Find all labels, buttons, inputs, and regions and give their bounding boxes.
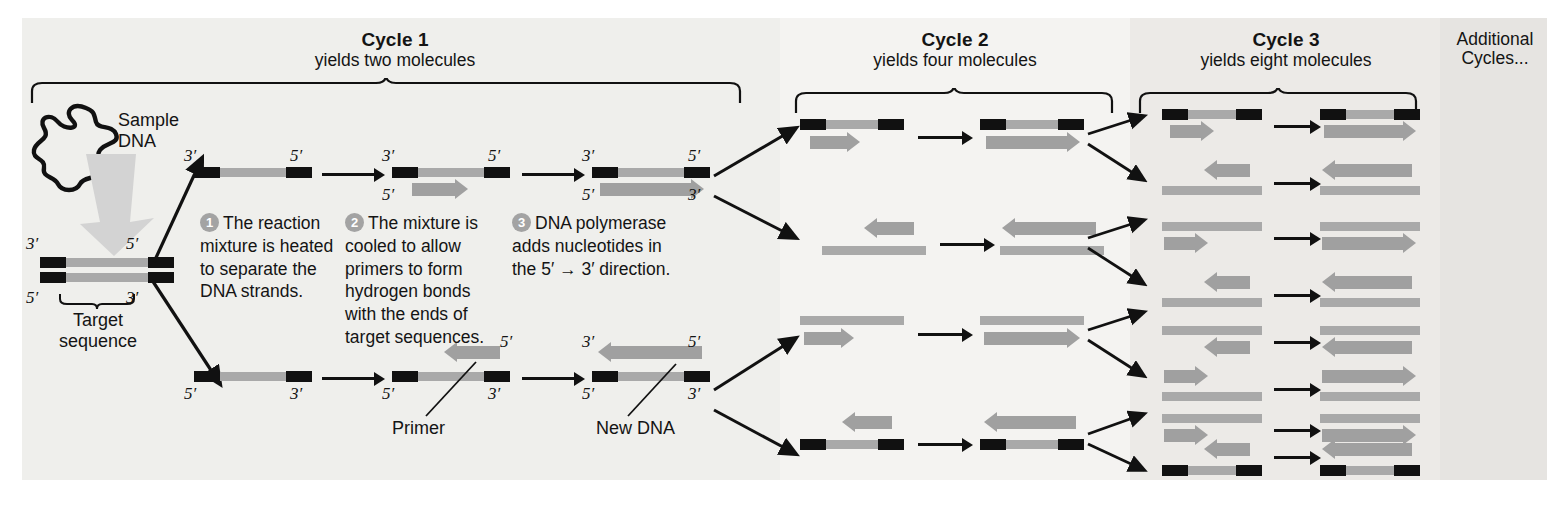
- c1-upper-a-3prime: 3′: [184, 146, 196, 166]
- duplex-3prime-topleft: 3′: [26, 234, 38, 254]
- strand: [800, 316, 904, 325]
- left-cap: [592, 167, 618, 178]
- c3-row3-b: [1320, 222, 1420, 254]
- primer-arrow-left: [1216, 164, 1250, 177]
- c3-row4-arrow: [1274, 294, 1312, 297]
- primer-arrow-left: [1216, 341, 1250, 354]
- sample-dna-label-line2: DNA: [118, 131, 218, 152]
- cycle-2-heading: Cycle 2 yields four molecules: [845, 30, 1065, 69]
- duplex-5prime-topright: 5′: [126, 234, 138, 254]
- step-3-text: DNA polymerase adds nucleotides in the 5…: [512, 213, 670, 279]
- left-cap: [800, 119, 826, 130]
- c3-row5-b: [1320, 326, 1420, 358]
- step-3-number: 3: [512, 213, 531, 232]
- left-cap: [1162, 109, 1188, 120]
- c3-row5-a: [1162, 326, 1262, 358]
- c1-upper-b-3prime: 3′: [382, 146, 394, 166]
- left-cap: [800, 439, 826, 450]
- target-sequence-label: Target sequence: [30, 310, 166, 352]
- cycle-3-subtitle: yields eight molecules: [1175, 51, 1397, 70]
- left-cap: [592, 371, 618, 382]
- duplex-top-right-cap: [148, 257, 174, 268]
- c1-lower-arrow-a-b: [322, 377, 376, 380]
- c1-lower-b-5prime: 5′: [382, 384, 394, 404]
- cycle-1-subtitle: yields two molecules: [280, 51, 510, 70]
- step-2-number: 2: [345, 213, 364, 232]
- c1-upper-a-5prime: 5′: [290, 146, 302, 166]
- strand: [1162, 326, 1262, 335]
- duplex-top-left-cap: [40, 257, 66, 268]
- right-cap: [1058, 439, 1084, 450]
- left-cap: [1162, 465, 1188, 476]
- new-dna-arrow-left: [1334, 276, 1412, 289]
- strand: [1162, 186, 1262, 195]
- c1-lower-c-new-3prime: 3′: [582, 332, 594, 352]
- additional-subtitle: Cycles...: [1443, 49, 1547, 68]
- strand: [1162, 298, 1262, 307]
- c1-upper-stage-b: [392, 168, 510, 208]
- right-cap: [1394, 109, 1420, 120]
- new-dna-arrow-right: [984, 332, 1068, 345]
- additional-title: Additional: [1443, 30, 1547, 49]
- c2-row4-a: [800, 420, 904, 454]
- c2-row1-a: [800, 120, 904, 154]
- strand: [980, 316, 1084, 325]
- cycle-1-heading: Cycle 1 yields two molecules: [280, 30, 510, 69]
- right-cap: [878, 439, 904, 450]
- pcr-diagram: Cycle 1 yields two molecules Cycle 2 yie…: [0, 0, 1561, 509]
- c1-lower-a-5prime: 5′: [184, 384, 196, 404]
- step-2-text: The mixture is cooled to allow primers t…: [345, 213, 484, 347]
- c3-row1-a: [1162, 110, 1262, 142]
- c1-lower-c-new-5prime: 5′: [688, 332, 700, 352]
- c3-row6-a: [1162, 372, 1262, 404]
- left-cap: [980, 119, 1006, 130]
- c1-upper-c-new-3prime: 3′: [688, 185, 700, 205]
- c1-lower-a-3prime: 3′: [290, 384, 302, 404]
- strand: [1320, 326, 1420, 335]
- left-cap: [1320, 465, 1346, 476]
- c2-row3-arrow: [918, 333, 964, 336]
- cycle-3-title: Cycle 3: [1175, 30, 1397, 51]
- right-cap: [286, 167, 312, 178]
- left-cap: [1320, 109, 1346, 120]
- right-cap: [1394, 465, 1420, 476]
- new-dna-arrow-right: [600, 183, 692, 196]
- c2-row2-a: [822, 226, 926, 260]
- brace-cycle-1: [30, 78, 742, 104]
- primer-arrow-right: [1170, 125, 1202, 138]
- strand: [1320, 298, 1420, 307]
- left-cap: [392, 167, 418, 178]
- c3-row8-arrow: [1274, 456, 1312, 459]
- c1-upper-b-5prime: 5′: [488, 146, 500, 166]
- target-sequence-line2: sequence: [30, 331, 166, 352]
- right-cap: [684, 167, 710, 178]
- primer-arrow-left: [854, 416, 892, 429]
- c3-row4-b: [1320, 278, 1420, 310]
- strand: [1320, 222, 1420, 231]
- new-dna-arrow-left: [1014, 222, 1096, 235]
- target-duplex: [40, 258, 174, 288]
- primer-arrow-left: [876, 222, 914, 235]
- right-cap: [684, 371, 710, 382]
- primer-arrow-right: [804, 332, 842, 345]
- duplex-bottom-left-cap: [40, 272, 66, 283]
- step-1-text: The reaction mixture is heated to separa…: [200, 213, 333, 301]
- c1-lower-c-3prime: 3′: [688, 384, 700, 404]
- additional-cycles-heading: Additional Cycles...: [1443, 30, 1547, 68]
- new-dna-arrow-right: [1322, 370, 1404, 383]
- c3-row7-arrow: [1274, 429, 1312, 432]
- new-dna-arrow-right: [1322, 237, 1404, 250]
- new-dna-arrow-right: [1324, 125, 1404, 138]
- c3-row1-b: [1320, 110, 1420, 142]
- brace-target-sequence: [58, 292, 136, 310]
- primer-arrow-left: [1216, 276, 1250, 289]
- c2-row3-b: [980, 316, 1084, 350]
- c2-row1-b: [980, 120, 1084, 154]
- primer-arrow-right: [1164, 370, 1196, 383]
- c1-lower-arrow-b-c: [522, 377, 576, 380]
- strand: [1320, 414, 1420, 423]
- new-dna-arrow-left: [1334, 443, 1412, 456]
- c1-upper-b-primer-5prime: 5′: [382, 185, 394, 205]
- c3-row4-a: [1162, 278, 1262, 310]
- c2-row1-arrow: [918, 136, 964, 139]
